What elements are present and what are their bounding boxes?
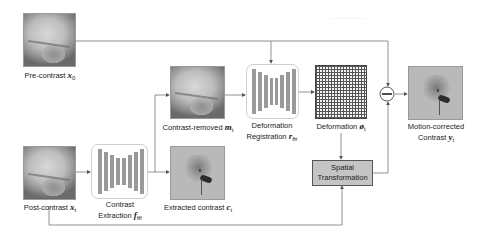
deformation-label: Deformation øt (300, 121, 382, 134)
contrast-extraction-network (91, 144, 148, 199)
contrast-extraction-label: Contrast Extraction fθf (80, 200, 160, 223)
extracted-contrast-image (170, 146, 225, 200)
diagram-canvas: .................. (0, 0, 483, 240)
extracted-contrast-label: Extracted contrast ct (155, 202, 241, 215)
deformation-registration-network (246, 64, 299, 119)
pre-contrast-label: Pre-contrast x0 (10, 70, 90, 83)
subtract-operator (380, 87, 394, 101)
contrast-removed-image (170, 66, 225, 119)
network-layer-icon (98, 149, 102, 194)
network-layer-icon (252, 69, 256, 114)
pre-contrast-image (23, 13, 76, 67)
spatial-transformation-box: Spatial Transformation (312, 160, 373, 186)
motion-corrected-image (408, 66, 463, 120)
contrast-removed-label: Contrast-removed mt (155, 122, 241, 135)
motion-corrected-label: Motion-corrected Contrast yt (394, 122, 478, 145)
deformation-field-image (315, 65, 367, 119)
post-contrast-image (23, 146, 76, 200)
